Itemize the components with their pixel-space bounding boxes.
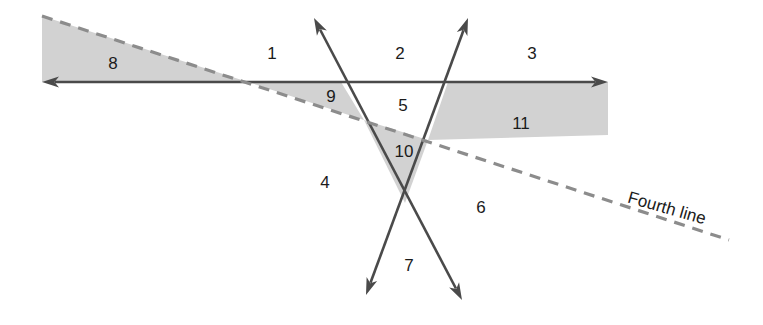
region-9-label: 9 [326, 87, 335, 106]
region-4-label: 4 [320, 173, 329, 192]
shade-region-8 [42, 16, 248, 82]
region-3-label: 3 [527, 44, 536, 63]
geometry-figure: 1234567891011 Fourth line [0, 0, 763, 325]
left-slant-line [320, 30, 456, 289]
region-2-label: 2 [395, 44, 404, 63]
region-5-label: 5 [398, 96, 407, 115]
diagram-canvas: 1234567891011 Fourth line [0, 0, 763, 325]
fourth-line-label: Fourth line [626, 188, 708, 228]
region-1-label: 1 [267, 44, 276, 63]
region-7-label: 7 [404, 256, 413, 275]
region-10-label: 10 [395, 142, 414, 161]
region-6-label: 6 [476, 198, 485, 217]
region-8-label: 8 [108, 54, 117, 73]
region-11-label: 11 [512, 114, 530, 133]
line-labels-group: Fourth line [626, 188, 708, 228]
